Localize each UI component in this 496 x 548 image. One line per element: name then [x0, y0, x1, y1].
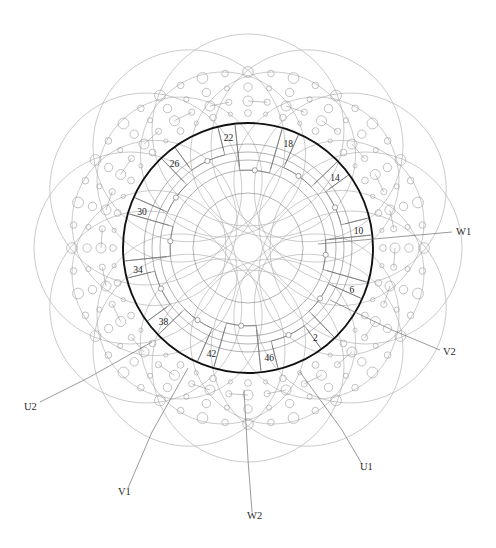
- terminal-w1-lead-line: [318, 232, 452, 244]
- conductor-circle: [245, 380, 252, 387]
- coil-end-turn: [126, 214, 173, 261]
- terminal-u2-label: U2: [24, 401, 37, 412]
- conductor-circle: [362, 177, 369, 184]
- conductor-circle: [288, 413, 299, 424]
- slot-14: 14: [330, 173, 340, 183]
- end-winding-loop: [93, 50, 285, 242]
- conductor-circle: [83, 244, 91, 252]
- conductor-circle: [163, 383, 171, 391]
- end-winding-loop: [50, 211, 242, 403]
- conductor-circle: [245, 110, 252, 117]
- conductor-circle: [222, 70, 229, 77]
- terminal-w2-lead-line: [244, 390, 252, 512]
- slot-10: 10: [354, 226, 364, 236]
- terminal-v2-label: V2: [443, 346, 456, 357]
- slot-30: 30: [137, 207, 147, 217]
- coil-connection-node: [173, 195, 178, 200]
- slot-18: 18: [283, 139, 293, 149]
- conductor-circle: [244, 83, 252, 91]
- conductor-circle: [86, 224, 91, 229]
- coil-connection-node: [195, 317, 200, 322]
- conductor-circle: [268, 419, 275, 426]
- conductor-link: [337, 352, 351, 365]
- conductor-link: [144, 131, 158, 144]
- conductor-circle: [118, 118, 129, 129]
- stator-winding-diagram: 2610141822263034384246 W1V2U1W2V1U2: [0, 0, 496, 548]
- conductor-circle: [352, 105, 359, 112]
- conductor-circle: [177, 362, 184, 369]
- conductor-circle: [73, 197, 84, 208]
- conductor-circle: [224, 405, 229, 410]
- conductor-circle: [222, 419, 229, 426]
- winding-canvas: 2610141822263034384246 W1V2U1W2V1U2: [0, 0, 496, 548]
- conductor-circle: [419, 222, 426, 229]
- coil-connection-node: [317, 296, 322, 301]
- slot-2: 2: [313, 333, 318, 343]
- slot-34: 34: [133, 265, 143, 275]
- end-winding-loop: [254, 93, 446, 285]
- conductor-circle: [118, 367, 129, 378]
- end-winding-loop: [34, 152, 226, 344]
- conductor-circle: [285, 399, 293, 407]
- conductor-circle: [70, 222, 77, 229]
- conductor-circle: [324, 383, 332, 391]
- conductor-circle: [128, 177, 135, 184]
- conductor-circle: [399, 202, 407, 210]
- terminal-u1-label: U1: [360, 461, 373, 472]
- coil-end-turn: [214, 323, 261, 370]
- conductor-circle: [197, 73, 208, 84]
- conductor-link: [121, 159, 132, 175]
- conductor-circle: [266, 86, 271, 91]
- conductor-circle: [312, 128, 319, 135]
- conductor-circle: [130, 358, 138, 366]
- conductor-circle: [88, 202, 96, 210]
- coil-connection-node: [168, 239, 173, 244]
- end-winding-loop: [270, 152, 462, 344]
- conductor-circle: [86, 266, 91, 271]
- conductor-circle: [405, 224, 410, 229]
- conductor-link: [352, 144, 365, 158]
- coil-end-turn: [235, 126, 282, 173]
- conductor-circle: [268, 70, 275, 77]
- end-winding-loop: [50, 93, 242, 285]
- coil-connection-node: [205, 158, 210, 163]
- coil-guide-ring: [170, 170, 326, 326]
- conductor-link: [192, 384, 210, 390]
- conductor-circle: [202, 399, 210, 407]
- coil-guide-ring: [152, 152, 344, 344]
- conductor-link: [365, 322, 376, 338]
- coil-guide-ring: [144, 144, 352, 352]
- stator-bore-circle: [123, 123, 373, 373]
- coil-end-turn-layer: [125, 125, 372, 372]
- conductor-circle: [352, 384, 359, 391]
- conductor-circle: [138, 105, 145, 112]
- terminal-v1-label: V1: [118, 486, 131, 497]
- conductor-circle: [324, 104, 332, 112]
- coil-connection-node: [158, 286, 163, 291]
- conductor-circle: [224, 86, 229, 91]
- coil-end-turn: [129, 271, 171, 320]
- conductor-link: [159, 365, 175, 376]
- conductor-link: [106, 192, 112, 210]
- conductor-circle: [358, 358, 366, 366]
- conductor-circle: [312, 362, 319, 369]
- conductor-circle: [130, 130, 138, 138]
- slot-26: 26: [170, 159, 180, 169]
- end-winding-loop: [152, 270, 344, 462]
- slot-22: 22: [224, 133, 234, 143]
- conductor-circle: [288, 73, 299, 84]
- conductor-circle: [266, 405, 271, 410]
- slot-6: 6: [349, 285, 354, 295]
- terminal-v1-lead-line: [128, 368, 188, 488]
- conductor-circle: [367, 367, 378, 378]
- coil-end-turn: [326, 176, 368, 225]
- conductor-link: [322, 121, 338, 132]
- conductor-circle: [285, 88, 293, 96]
- slot-label-layer: 2610141822263034384246: [133, 133, 363, 363]
- slot-38: 38: [159, 317, 169, 327]
- terminal-w2-label: W2: [247, 510, 262, 521]
- terminal-w1-label: W1: [456, 226, 471, 237]
- conductor-circle: [197, 413, 208, 424]
- conductor-circle: [155, 362, 161, 368]
- end-winding-loop: [93, 254, 285, 446]
